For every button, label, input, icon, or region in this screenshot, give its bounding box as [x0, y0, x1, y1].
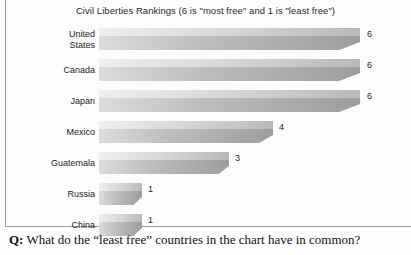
- category-label-line1: China: [71, 220, 95, 230]
- category-label-line1: Guatemala: [51, 158, 95, 168]
- chart-panel: Civil Liberties Rankings (6 is "most fre…: [0, 0, 411, 227]
- page-root: Civil Liberties Rankings (6 is "most fre…: [0, 0, 411, 255]
- bar-canada[interactable]: [99, 59, 360, 81]
- bar-value-united-states: 6: [367, 29, 372, 39]
- bar-top-face: [99, 90, 360, 98]
- bar-russia[interactable]: [99, 183, 142, 205]
- category-label-mexico: Mexico: [10, 127, 95, 138]
- category-label-line1: Russia: [67, 189, 95, 199]
- bar-value-russia: 1: [148, 184, 153, 194]
- question-text: What do the “least free” countries in th…: [26, 232, 360, 247]
- category-label-japan: Japan: [10, 96, 95, 107]
- bar-row-guatemala: Guatemala 3: [0, 149, 411, 177]
- bar-row-canada: Canada 6: [0, 56, 411, 84]
- category-label-line1: Japan: [70, 96, 95, 106]
- bar-mexico[interactable]: [99, 121, 273, 143]
- question-line: Q: What do the “least free” countries in…: [9, 232, 409, 248]
- bar-front-face: [99, 98, 360, 112]
- bar-top-face: [99, 59, 360, 67]
- chart-title: Civil Liberties Rankings (6 is "most fre…: [0, 5, 411, 16]
- category-label-guatemala: Guatemala: [10, 158, 95, 169]
- category-label-russia: Russia: [10, 189, 95, 200]
- bar-top-face: [99, 28, 360, 36]
- bar-front-face: [99, 129, 273, 143]
- bar-top-face: [99, 214, 142, 222]
- bar-top-face: [99, 121, 273, 129]
- bar-value-mexico: 4: [279, 122, 284, 132]
- bar-front-face: [99, 67, 360, 81]
- category-label-line2: States: [10, 39, 95, 50]
- bar-value-japan: 6: [367, 91, 372, 101]
- category-label-line1: Canada: [63, 65, 95, 75]
- bar-japan[interactable]: [99, 90, 360, 112]
- bar-top-face: [99, 183, 142, 191]
- bar-guatemala[interactable]: [99, 152, 229, 174]
- bar-row-russia: Russia 1: [0, 180, 411, 208]
- bar-front-face: [99, 160, 229, 174]
- bar-row-japan: Japan 6: [0, 87, 411, 115]
- category-label-line1: United: [69, 29, 95, 39]
- bar-value-canada: 6: [367, 60, 372, 70]
- category-label-canada: Canada: [10, 65, 95, 76]
- bar-front-face: [99, 36, 360, 50]
- category-label-line1: Mexico: [66, 127, 95, 137]
- chart-plot-area: United States 6 Canada 6: [0, 25, 411, 223]
- question-prefix: Q:: [9, 232, 23, 247]
- category-label-china: China: [10, 220, 95, 231]
- category-label-united-states: United States: [10, 29, 95, 50]
- bar-value-china: 1: [148, 215, 153, 225]
- bar-united-states[interactable]: [99, 28, 360, 50]
- bar-row-mexico: Mexico 4: [0, 118, 411, 146]
- bar-front-face: [99, 191, 142, 205]
- bar-value-guatemala: 3: [235, 153, 240, 163]
- bar-top-face: [99, 152, 229, 160]
- bar-row-united-states: United States 6: [0, 25, 411, 53]
